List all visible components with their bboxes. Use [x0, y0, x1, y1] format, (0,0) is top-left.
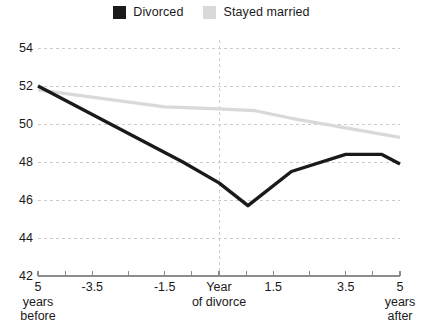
plot-area: [0, 0, 423, 327]
y-axis-labels: 54525048464442: [0, 0, 33, 327]
y-tick-label-48: 48: [3, 156, 33, 168]
happiness-line-chart: Divorced Stayed married 54525048464442 5…: [0, 0, 423, 327]
data-series: [38, 86, 400, 206]
plot-svg: [0, 0, 423, 327]
y-tick-label-52: 52: [3, 80, 33, 92]
y-tick-label-54: 54: [3, 42, 33, 54]
y-tick-label-44: 44: [3, 232, 33, 244]
y-tick-label-50: 50: [3, 118, 33, 130]
y-tick-label-46: 46: [3, 194, 33, 206]
x-tick-label-6: 5 years after: [355, 280, 423, 324]
x-axis-ticks: [38, 271, 400, 276]
x-axis-labels: 5 years before-3.5-1.5Year of divorce1.5…: [0, 280, 423, 327]
series-line-divorced: [38, 86, 400, 206]
